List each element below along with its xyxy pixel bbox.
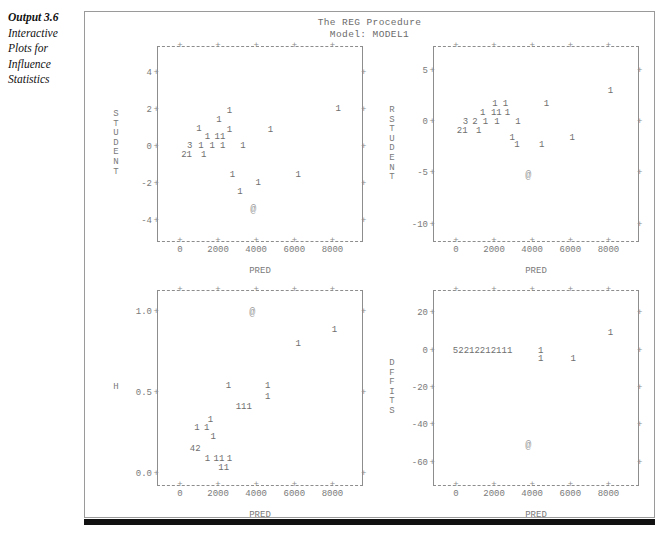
data-point-count: 111 (236, 402, 252, 411)
data-point-count: 1 (505, 109, 510, 118)
data-point-count: 1 (538, 355, 543, 364)
y-axis-title: STUDENT (111, 110, 121, 177)
data-point-marker: @ (525, 171, 531, 180)
y-axis-tick-label: 0 (423, 346, 428, 355)
plot-area-student-vs-pred: ++4++2++0++-2++-4++0++2000++4000++6000++… (157, 46, 363, 242)
x-axis-tick-label: 4000 (245, 490, 267, 499)
x-tick-mark: + (253, 286, 258, 295)
x-axis-tick-label: 0 (177, 246, 182, 255)
x-axis-tick-label: 8000 (322, 490, 344, 499)
data-point-count: 1 (295, 340, 300, 349)
data-point-count: 1 (240, 142, 245, 151)
data-point-count: 1 (226, 381, 231, 390)
y-axis-line-left (433, 291, 434, 485)
x-tick-mark: + (330, 42, 335, 51)
y-axis-line-left (157, 47, 158, 241)
plot-area-h-vs-pred: ++1.0++0.5++0.0++0++2000++4000++6000++80… (157, 290, 363, 486)
y-axis-tick-label: -10 (412, 220, 428, 229)
y-axis-title: H (111, 383, 121, 393)
x-axis-tick-label: 4000 (245, 246, 267, 255)
data-point-count: 1 (196, 125, 201, 134)
y-axis-line-right (638, 291, 639, 485)
y-axis-line-right (362, 47, 363, 241)
data-point-count: 42 (190, 444, 201, 453)
data-point-count: 1 (514, 140, 519, 149)
x-axis-tick-label: 2000 (207, 246, 229, 255)
y-axis-tick-label: 0 (423, 117, 428, 126)
caption-line-3: Influence (8, 57, 78, 73)
y-axis-tick-label: 5 (423, 66, 428, 75)
data-point-count: 1 (220, 142, 225, 151)
x-tick-mark: + (292, 286, 297, 295)
y-axis-tick-label: 0.0 (136, 469, 152, 478)
data-point-count: 1 (216, 115, 221, 124)
x-axis-tick-label: 8000 (322, 246, 344, 255)
x-axis-tick-label: 2000 (483, 490, 505, 499)
data-point-marker: @ (249, 308, 255, 317)
data-point-count: 21 (457, 126, 468, 135)
x-axis-tick-label: 2000 (207, 490, 229, 499)
x-tick-mark: + (491, 286, 496, 295)
x-tick-mark: + (253, 42, 258, 51)
y-axis-tick-label: 2 (147, 105, 152, 114)
data-point-count: 1 (227, 126, 232, 135)
x-axis-tick-label: 6000 (560, 490, 582, 499)
y-axis-tick-label: -40 (412, 421, 428, 430)
x-axis-tick-label: 6000 (284, 490, 306, 499)
x-tick-mark: + (215, 42, 220, 51)
data-point-count: 1 (608, 87, 613, 96)
data-point-count: 1 (194, 423, 199, 432)
data-point-count: 1 (570, 355, 575, 364)
procedure-title: The REG Procedure (85, 17, 654, 29)
data-point-count: 1 (544, 99, 549, 108)
x-axis-tick-label: 2000 (483, 246, 505, 255)
data-point-marker: @ (250, 204, 256, 213)
data-point-count: 1 (210, 142, 215, 151)
x-tick-mark: + (529, 286, 534, 295)
data-point-count: 1 (230, 171, 235, 180)
x-axis-tick-label: 6000 (284, 246, 306, 255)
x-axis-tick-label: 4000 (521, 490, 543, 499)
data-point-count: 1 (265, 381, 270, 390)
x-axis-tick-label: 4000 (521, 246, 543, 255)
data-point-count: 1 (494, 117, 499, 126)
caption-line-1: Interactive (8, 26, 78, 42)
x-axis-tick-label: 8000 (598, 490, 620, 499)
data-point-count: 1 (211, 433, 216, 442)
plot-container: The REG Procedure Model: MODEL1 ++4++2++… (84, 11, 655, 518)
x-axis-title: PRED (433, 266, 639, 276)
caption-line-2: Plots for (8, 41, 78, 57)
x-tick-mark: + (453, 286, 458, 295)
y-axis-tick-label: 1.0 (136, 308, 152, 317)
data-point-count: 1 (332, 325, 337, 334)
plot-area-rstudent-vs-pred: ++5++0++-5++-10++0++2000++4000++6000++80… (433, 46, 639, 242)
x-axis-tick-label: 0 (177, 490, 182, 499)
data-point-count: 1 (201, 150, 206, 159)
y-axis-line-left (433, 47, 434, 241)
y-axis-tick-label: -2 (141, 179, 152, 188)
x-axis-title: PRED (157, 266, 363, 276)
y-axis-line-left (157, 291, 158, 485)
data-point-count: 1 (515, 117, 520, 126)
x-axis-tick-label: 6000 (560, 246, 582, 255)
data-point-count: 11 (218, 464, 229, 473)
y-axis-line-right (362, 291, 363, 485)
x-tick-mark: + (568, 42, 573, 51)
data-point-count: 1 (265, 392, 270, 401)
y-axis-tick-label: -60 (412, 458, 428, 467)
y-axis-tick-label: 4 (147, 68, 152, 77)
y-axis-tick-label: 0 (147, 142, 152, 151)
y-axis-title: DFFITS (387, 359, 397, 417)
data-point-count: 1 (237, 188, 242, 197)
bottom-rule (84, 519, 655, 525)
y-axis-tick-label: -5 (417, 169, 428, 178)
x-tick-mark: + (330, 286, 335, 295)
data-point-count: 1 (295, 171, 300, 180)
x-axis-tick-label: 8000 (598, 246, 620, 255)
data-point-count: 1 (608, 328, 613, 337)
data-point-count: 1 (227, 106, 232, 115)
panel-rstudent: ++5++0++-5++-10++0++2000++4000++6000++80… (379, 40, 645, 282)
procedure-header: The REG Procedure Model: MODEL1 (85, 17, 654, 40)
x-axis-tick-label: 0 (453, 490, 458, 499)
x-tick-mark: + (177, 286, 182, 295)
